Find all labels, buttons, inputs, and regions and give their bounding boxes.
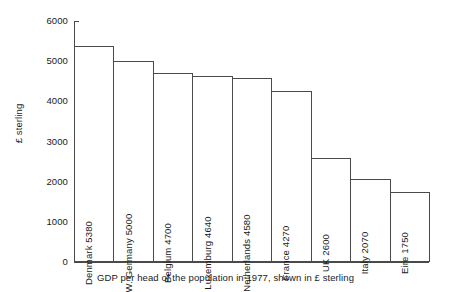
bar-w-germany[interactable]: W. Germany 5000 <box>113 61 153 262</box>
bar-uk[interactable]: UK 2600 <box>311 158 351 262</box>
bar-label: Italy 2070 <box>360 232 370 275</box>
bar-france[interactable]: France 4270 <box>271 91 311 263</box>
bar-italy[interactable]: Italy 2070 <box>350 179 390 262</box>
bar-eire[interactable]: Eire 1750 <box>390 192 430 262</box>
bar-label: Netherlands 4580 <box>242 214 252 291</box>
bar-label: Eire 1750 <box>400 232 410 274</box>
bar-denmark[interactable]: Denmark 5380 <box>74 46 114 262</box>
bar-label: UK 2600 <box>321 234 331 272</box>
bar-belgium[interactable]: Belgium 4700 <box>153 73 193 262</box>
bar-netherlands[interactable]: Netherlands 4580 <box>232 78 272 262</box>
chart-caption: GDP per head of the population in 1977, … <box>0 272 451 283</box>
bar-label: Luxemburg 4640 <box>203 216 213 289</box>
bar-label: France 4270 <box>281 226 291 281</box>
bar-label: Belgium 4700 <box>163 223 173 283</box>
bar-label: Denmark 5380 <box>84 221 94 285</box>
bar-luxemburg[interactable]: Luxemburg 4640 <box>192 76 232 262</box>
bar-label: W. Germany 5000 <box>124 214 134 292</box>
